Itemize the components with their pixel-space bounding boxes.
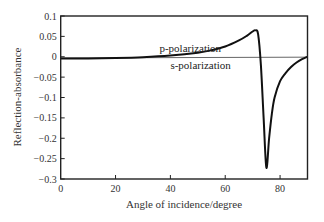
y-axis-title: Reflection-absorbance xyxy=(11,47,23,146)
y-tick-label: 0.05 xyxy=(39,31,57,42)
p-polarization-label: p-polarization xyxy=(159,42,221,54)
plot-frame xyxy=(61,16,308,179)
x-axis-ticks: 020406080 xyxy=(58,175,285,194)
s-polarization-label: s-polarization xyxy=(170,59,231,71)
y-tick-label: −0.15 xyxy=(34,112,57,123)
y-tick-label: −0.05 xyxy=(34,72,57,83)
x-tick-label: 20 xyxy=(111,183,121,194)
y-tick-label: 0 xyxy=(52,51,57,62)
y-tick-label: 0.1 xyxy=(44,11,57,22)
y-tick-label: −0.2 xyxy=(39,133,57,144)
y-tick-label: −0.3 xyxy=(39,174,57,185)
y-tick-label: −0.1 xyxy=(39,92,57,103)
x-axis-title: Angle of incidence/degree xyxy=(126,198,242,210)
x-tick-label: 0 xyxy=(58,183,63,194)
y-tick-label: −0.25 xyxy=(34,153,57,164)
x-tick-label: 80 xyxy=(275,183,285,194)
reflection-absorbance-chart: 0.10.050−0.05−0.1−0.15−0.2−0.25−0.3 0204… xyxy=(0,0,324,222)
x-tick-label: 40 xyxy=(165,183,175,194)
x-tick-label: 60 xyxy=(220,183,230,194)
